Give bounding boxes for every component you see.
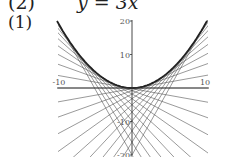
tick-label: -10 bbox=[117, 118, 130, 127]
envelope-chart: -10102010-10-20 bbox=[0, 0, 230, 157]
tick-label: -10 bbox=[53, 78, 66, 87]
axis-ticks: -10102010-10-20 bbox=[53, 17, 211, 157]
tick-label: -20 bbox=[117, 151, 130, 157]
tick-label: 10 bbox=[200, 78, 210, 87]
tick-label: 10 bbox=[120, 51, 130, 60]
tick-label: 20 bbox=[120, 17, 130, 26]
